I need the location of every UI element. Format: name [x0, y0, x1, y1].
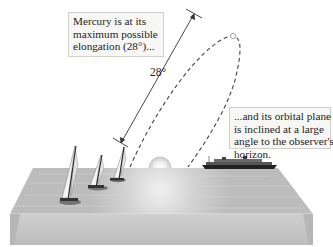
- callout-line: Mercury is at its: [73, 15, 159, 28]
- callout-line: ...and its orbital plane: [234, 110, 326, 123]
- callout-line: is inclined at a large: [234, 123, 326, 136]
- callout-line: angle to the observer's: [234, 135, 326, 148]
- ocean-front-face: [10, 214, 313, 245]
- angle-label: 28°: [150, 66, 166, 78]
- callout-line: maximum possible: [73, 28, 159, 41]
- mercury-icon: [230, 33, 235, 38]
- callout-line: elongation (28°)...: [73, 40, 159, 53]
- callout-line: horizon.: [234, 148, 326, 161]
- max-elongation-callout: Mercury is at its maximum possible elong…: [68, 12, 164, 57]
- orbital-plane-callout: ...and its orbital plane is inclined at …: [229, 107, 331, 149]
- ocean-surface: [10, 168, 313, 214]
